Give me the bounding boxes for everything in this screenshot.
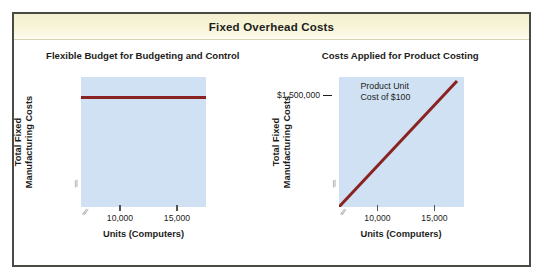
x-axis-title-right: Units (Computers) [339, 229, 464, 239]
x-tick-mark-right-15000 [434, 205, 436, 211]
chart-title-right: Costs Applied for Product Costing [272, 50, 530, 61]
figure-title: Fixed Overhead Costs [209, 21, 334, 33]
x-tick-mark-left-15000 [176, 205, 178, 211]
series-line-fixed-overhead [81, 96, 206, 99]
x-axis-title-left: Units (Computers) [81, 229, 206, 239]
chart-title-left: Flexible Budget for Budgeting and Contro… [14, 50, 272, 61]
y-tick-dash-right [323, 95, 332, 97]
y-axis-title-right-line2: Manufacturing Costs [282, 96, 294, 188]
plot-area-left [81, 77, 206, 207]
charts-container: Flexible Budget for Budgeting and Contro… [14, 39, 529, 265]
chart-left: Total Fixed Manufacturing Costs $1,500,0… [14, 69, 272, 265]
y-axis-title-left-line1: Total Fixed [13, 118, 25, 166]
x-axis-break-icon-right: // [339, 207, 345, 218]
plot-area-right: Product Unit Cost of $100 [339, 77, 464, 207]
figure-frame: Fixed Overhead Costs Flexible Budget for… [12, 12, 531, 267]
x-tick-label-right-15000: 15,000 [421, 213, 447, 223]
y-axis-title-right-line1: Total Fixed [270, 118, 282, 166]
chart-right: Total Fixed Manufacturing Costs $1,500,0… [272, 69, 530, 265]
y-axis-break-icon-right: // [330, 179, 337, 190]
annotation-product-unit-cost: Product Unit Cost of $100 [361, 81, 411, 103]
y-tick-label-right-1500000: $1,500,000 [277, 90, 332, 100]
x-axis-break-icon-left: // [82, 207, 88, 218]
chart-panel-flexible-budget: Flexible Budget for Budgeting and Contro… [14, 39, 272, 265]
chart-panel-costs-applied: Costs Applied for Product Costing Total … [272, 39, 530, 265]
x-tick-mark-left-10000 [119, 205, 121, 211]
y-axis-title-left-line2: Manufacturing Costs [24, 96, 36, 188]
y-axis-title-left: Total Fixed Manufacturing Costs [11, 77, 37, 207]
x-tick-label-left-10000: 10,000 [107, 213, 133, 223]
x-tick-label-right-10000: 10,000 [364, 213, 390, 223]
x-tick-mark-right-10000 [377, 205, 379, 211]
y-axis-break-icon-left: // [72, 179, 79, 190]
figure-banner: Fixed Overhead Costs [14, 14, 529, 40]
x-tick-label-left-15000: 15,000 [164, 213, 190, 223]
